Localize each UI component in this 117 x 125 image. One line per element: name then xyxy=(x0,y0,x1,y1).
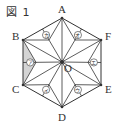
region-label-ア: ア xyxy=(28,59,33,66)
vertex-label-B: B xyxy=(12,30,19,42)
region-label-ウ: ウ xyxy=(75,87,80,93)
vertex-point-D xyxy=(61,106,64,109)
region-label-カ: カ xyxy=(44,32,49,39)
center-label-O: O xyxy=(64,62,72,74)
hexagon-diagram: オエウイアカOAFEDCB xyxy=(0,0,117,125)
region-label-エ: エ xyxy=(91,59,96,65)
vertex-label-A: A xyxy=(58,3,66,15)
vertex-label-C: C xyxy=(12,83,19,95)
vertex-point-C xyxy=(22,84,25,87)
vertex-point-F xyxy=(100,39,103,42)
vertex-point-A xyxy=(61,17,64,20)
vertex-label-D: D xyxy=(58,111,66,123)
vertex-point-E xyxy=(100,84,103,87)
vertex-label-F: F xyxy=(105,30,111,42)
region-label-オ: オ xyxy=(75,32,80,38)
vertex-point-B xyxy=(22,39,25,42)
vertex-label-E: E xyxy=(105,83,112,95)
region-label-イ: イ xyxy=(44,87,49,93)
